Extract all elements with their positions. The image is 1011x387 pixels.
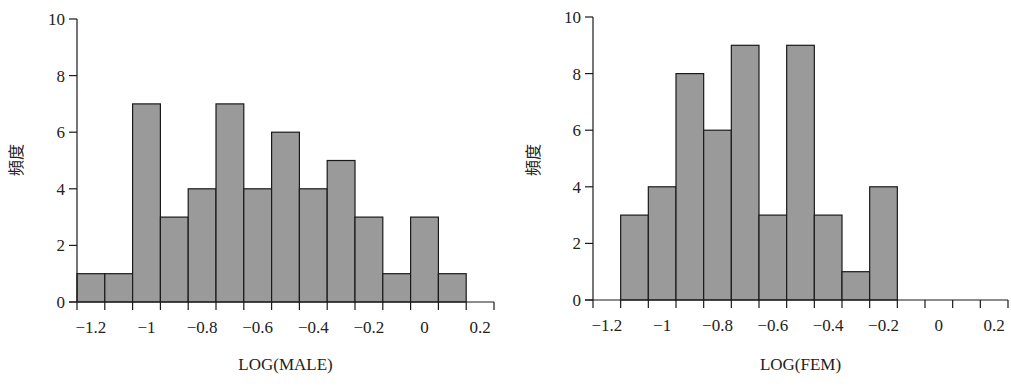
y-tick-label: 8 <box>573 65 582 84</box>
x-axis-title: LOG(FEM) <box>760 355 841 374</box>
y-tick-label: 2 <box>57 236 66 255</box>
histogram-bar <box>272 132 300 302</box>
x-axis-title: LOG(MALE) <box>238 355 332 374</box>
histogram-bar <box>814 215 842 300</box>
y-tick-label: 2 <box>573 234 582 253</box>
x-tick-label: −1.2 <box>75 318 106 337</box>
histogram-bar <box>787 45 815 300</box>
y-tick-label: 6 <box>573 121 582 140</box>
x-tick-label: −0.4 <box>298 318 329 337</box>
histogram-bar <box>870 187 898 300</box>
y-tick-label: 0 <box>57 293 66 312</box>
y-tick-label: 4 <box>573 178 582 197</box>
histogram-bar <box>188 189 216 302</box>
x-tick-label: 0.2 <box>469 318 490 337</box>
y-tick-label: 10 <box>564 8 581 27</box>
histogram-fem-panel: 0246810−1.2−1−0.8−0.6−0.4−0.200.2LOG(FEM… <box>505 0 1011 387</box>
x-tick-label: −0.6 <box>242 318 273 337</box>
histogram-bar <box>704 130 732 300</box>
histogram-bar <box>438 274 466 302</box>
histogram-bar <box>759 215 787 300</box>
y-axis-title: 頻度 <box>8 144 25 176</box>
histogram-bar <box>355 217 383 302</box>
histogram-bar <box>648 187 676 300</box>
x-tick-label: 0 <box>935 316 944 335</box>
y-tick-label: 0 <box>573 291 582 310</box>
histogram-bar <box>411 217 439 302</box>
x-tick-label: −1 <box>137 318 155 337</box>
x-tick-label: −1.2 <box>591 316 622 335</box>
x-tick-label: −0.8 <box>187 318 218 337</box>
histogram-bar <box>383 274 411 302</box>
y-tick-label: 10 <box>48 10 65 29</box>
histogram-bar <box>731 45 759 300</box>
histogram-bar <box>216 104 244 302</box>
x-tick-label: −0.2 <box>868 316 899 335</box>
x-tick-label: −0.6 <box>757 316 788 335</box>
x-tick-label: 0.2 <box>984 316 1005 335</box>
histogram-bars <box>621 45 898 300</box>
histogram-bar <box>133 104 161 302</box>
histogram-bar <box>327 161 355 303</box>
y-tick-label: 8 <box>57 67 66 86</box>
x-tick-label: −1 <box>653 316 671 335</box>
histogram-male-panel: 0246810−1.2−1−0.8−0.6−0.4−0.200.2LOG(MAL… <box>0 0 505 387</box>
x-tick-label: 0 <box>420 318 429 337</box>
histogram-fem: 0246810−1.2−1−0.8−0.6−0.4−0.200.2LOG(FEM… <box>505 0 1011 387</box>
histogram-bar <box>676 74 704 300</box>
histogram-male: 0246810−1.2−1−0.8−0.6−0.4−0.200.2LOG(MAL… <box>0 0 505 387</box>
histogram-bar <box>299 189 327 302</box>
histogram-bar <box>160 217 188 302</box>
x-tick-label: −0.2 <box>353 318 384 337</box>
histogram-bar <box>842 272 870 300</box>
y-axis-title: 頻度 <box>525 144 542 176</box>
histogram-bar <box>105 274 133 302</box>
x-tick-label: −0.4 <box>813 316 844 335</box>
histogram-bars <box>77 104 466 302</box>
histogram-bar <box>77 274 105 302</box>
y-tick-label: 4 <box>57 180 66 199</box>
y-tick-label: 6 <box>57 123 66 142</box>
x-tick-label: −0.8 <box>702 316 733 335</box>
histogram-bar <box>621 215 649 300</box>
histogram-bar <box>244 189 272 302</box>
